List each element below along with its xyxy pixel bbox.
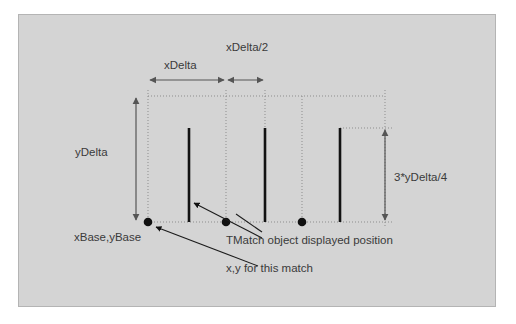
- label-match-xy: x,y for this match: [226, 263, 313, 275]
- label-xdelta: xDelta: [164, 60, 197, 72]
- label-ydelta: yDelta: [75, 147, 108, 159]
- xy-leader-line: [156, 227, 258, 266]
- tick-marks: [189, 128, 340, 222]
- tmatch-leader-line-2: [236, 214, 262, 232]
- dot-3: [298, 218, 307, 227]
- label-tmatch-position: TMatch object displayed position: [226, 235, 393, 247]
- dot-base: [144, 218, 153, 227]
- label-ydelta-three-quarters: 3*yDelta/4: [394, 172, 447, 184]
- guide-grid: [148, 90, 392, 226]
- figure-root: xDelta xDelta/2 yDelta 3*yDelta/4 xBase,…: [0, 0, 516, 324]
- label-xdelta-half: xDelta/2: [226, 42, 268, 54]
- dimension-arrows: [136, 80, 385, 220]
- label-base-point: xBase,yBase: [74, 232, 141, 244]
- tmatch-leader-line: [194, 203, 262, 238]
